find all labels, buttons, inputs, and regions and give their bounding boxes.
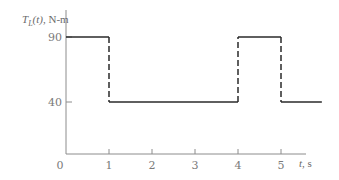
x-tick-label: 1 (106, 159, 113, 172)
x-tick-label: 4 (235, 159, 242, 172)
series-load-torque (66, 37, 322, 102)
axes: 0123454090 (48, 10, 306, 172)
torque-step-chart: 0123454090 TL(t), N-m t, s (0, 0, 339, 180)
y-tick-label: 40 (48, 96, 62, 109)
x-tick-label: 3 (192, 159, 199, 172)
x-tick-label: 5 (278, 159, 285, 172)
y-axis-title: TL(t), N-m (22, 13, 69, 28)
x-axis-title: t, s (299, 157, 312, 169)
y-tick-label: 90 (48, 31, 62, 44)
x-tick-label: 2 (149, 159, 156, 172)
x-tick-label: 0 (57, 159, 64, 172)
